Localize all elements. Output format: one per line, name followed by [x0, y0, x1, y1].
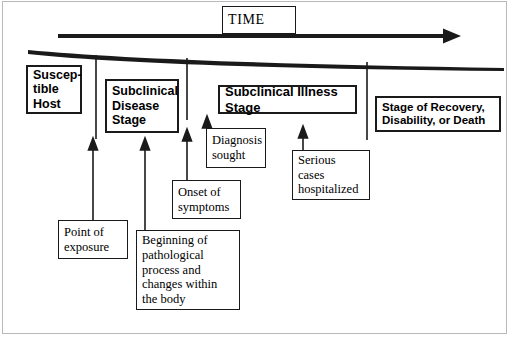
stage-label-stage-of-recovery: Stage of Recovery, Disability, or Death [377, 101, 499, 128]
event-box-point-of-exposure: Point of exposure [58, 220, 128, 259]
natural-history-of-disease-diagram: TIME Suscep- tible Host Subclinical Dise… [0, 0, 513, 338]
stage-label-susceptible-host: Suscep- tible Host [28, 68, 87, 112]
event-box-beginning-pathological-process: Beginning of pathological process and ch… [136, 230, 240, 310]
time-label-box: TIME [222, 6, 296, 34]
event-box-onset-of-symptoms: Onset of symptoms [172, 180, 241, 219]
event-label-serious-cases-hospitalized: Serious cases hospitalized [293, 153, 369, 197]
stage-box-subclinical-illness-stage: Subclinical Illness Stage [218, 85, 357, 114]
time-label: TIME [223, 12, 295, 28]
event-label-beginning-pathological-process: Beginning of pathological process and ch… [137, 233, 239, 306]
stage-label-subclinical-illness-stage: Subclinical Illness Stage [220, 84, 355, 114]
event-label-onset-of-symptoms: Onset of symptoms [173, 185, 240, 214]
stage-label-subclinical-disease-stage: Subclinical Disease Stage [107, 84, 183, 128]
event-label-diagnosis-sought: Diagnosis sought [207, 133, 267, 162]
stage-box-stage-of-recovery: Stage of Recovery, Disability, or Death [375, 96, 501, 132]
event-label-point-of-exposure: Point of exposure [59, 225, 127, 254]
stage-box-subclinical-disease-stage: Subclinical Disease Stage [105, 79, 179, 133]
event-box-diagnosis-sought: Diagnosis sought [206, 128, 266, 168]
stage-box-susceptible-host: Suscep- tible Host [26, 65, 82, 114]
event-box-serious-cases-hospitalized: Serious cases hospitalized [292, 150, 370, 200]
